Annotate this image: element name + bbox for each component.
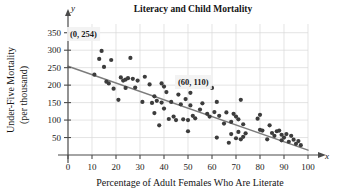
data-point xyxy=(140,100,144,104)
data-point xyxy=(174,118,178,122)
data-point xyxy=(208,114,212,118)
data-point xyxy=(241,122,245,126)
data-point xyxy=(287,140,291,144)
data-point xyxy=(212,110,216,114)
y-axis-caption-line2: (per thousand) xyxy=(18,66,30,124)
data-point xyxy=(241,135,245,139)
data-point xyxy=(169,100,173,104)
data-point xyxy=(227,141,231,145)
data-point xyxy=(126,76,130,80)
data-point xyxy=(188,103,192,107)
x-tick-label-0: 0 xyxy=(66,162,71,172)
data-point xyxy=(112,87,116,91)
data-point xyxy=(133,85,137,89)
data-point xyxy=(186,118,190,122)
data-point xyxy=(289,134,293,138)
data-point xyxy=(160,101,164,105)
x-tick-label-100: 100 xyxy=(301,162,315,172)
y-tick-label-300: 300 xyxy=(48,45,62,55)
data-point xyxy=(167,117,171,121)
data-point xyxy=(244,131,248,135)
data-point xyxy=(234,136,238,140)
annotation-0-label: (0, 254) xyxy=(70,29,97,39)
data-point xyxy=(292,138,296,142)
data-point xyxy=(236,117,240,121)
y-tick-label-350: 350 xyxy=(48,28,62,38)
data-point xyxy=(215,135,219,139)
y-tick-label-200: 200 xyxy=(48,80,62,90)
chart-title: Literacy and Child Mortality xyxy=(134,4,253,14)
data-point xyxy=(299,143,303,147)
y-tick-label-150: 150 xyxy=(48,98,62,108)
y-tick-label-50: 50 xyxy=(52,133,62,143)
data-point xyxy=(116,98,120,102)
data-point xyxy=(272,134,276,138)
annotation-1: (60, 110) xyxy=(175,75,212,89)
data-point xyxy=(268,123,272,127)
data-point xyxy=(109,58,113,62)
data-point xyxy=(236,130,240,134)
data-point xyxy=(152,111,156,115)
data-point xyxy=(143,75,147,79)
data-point xyxy=(181,117,185,121)
data-point xyxy=(184,97,188,101)
data-point xyxy=(256,117,260,121)
data-point xyxy=(162,84,166,88)
data-point xyxy=(172,114,176,118)
x-tick-label-40: 40 xyxy=(160,162,170,172)
data-point xyxy=(265,137,269,141)
data-point xyxy=(152,94,156,98)
data-point xyxy=(128,56,132,60)
x-tick-label-50: 50 xyxy=(184,162,194,172)
data-point xyxy=(282,135,286,139)
x-tick-label-80: 80 xyxy=(256,162,266,172)
y-tick-label-100: 100 xyxy=(48,115,62,125)
data-point xyxy=(150,101,154,105)
data-point xyxy=(229,132,233,136)
x-axis-name: x xyxy=(324,151,329,161)
x-axis-caption: Percentage of Adult Females Who Are Lite… xyxy=(96,177,284,188)
data-point xyxy=(92,73,96,77)
data-point xyxy=(100,49,104,53)
y-tick-label-250: 250 xyxy=(48,63,62,73)
data-point xyxy=(224,110,228,114)
data-point xyxy=(258,113,262,117)
data-point xyxy=(186,129,190,133)
chart-figure: 0102030405060708090100 50100150200250300… xyxy=(0,0,338,192)
data-point xyxy=(136,78,140,82)
data-point xyxy=(107,81,111,85)
data-point xyxy=(239,98,243,102)
data-point xyxy=(193,116,197,120)
data-point xyxy=(157,123,161,127)
x-tick-label-20: 20 xyxy=(112,162,122,172)
data-point xyxy=(200,101,204,105)
y-axis-name: y xyxy=(70,3,75,13)
data-point xyxy=(229,120,233,124)
data-point xyxy=(296,139,300,143)
data-point xyxy=(215,100,219,104)
data-point xyxy=(188,91,192,95)
data-point xyxy=(124,86,128,90)
data-point xyxy=(217,114,221,118)
annotation-0: (0, 254) xyxy=(67,27,100,41)
data-point xyxy=(155,99,159,103)
data-point xyxy=(162,106,166,110)
data-point xyxy=(284,132,288,136)
data-point xyxy=(148,82,152,86)
data-point xyxy=(222,121,226,125)
data-point xyxy=(260,128,264,132)
data-point xyxy=(102,65,106,69)
x-tick-label-70: 70 xyxy=(232,162,242,172)
data-point xyxy=(277,128,281,132)
data-point xyxy=(179,102,183,106)
y-axis-caption-line1: Under-Five Mortality xyxy=(5,47,16,133)
x-tick-label-10: 10 xyxy=(88,162,98,172)
data-point xyxy=(176,92,180,96)
x-tick-label-60: 60 xyxy=(208,162,218,172)
data-point xyxy=(131,77,135,81)
data-point xyxy=(97,57,101,61)
scatter-plot: 0102030405060708090100 50100150200250300… xyxy=(0,0,338,192)
data-point xyxy=(198,107,202,111)
data-point xyxy=(164,90,168,94)
annotation-1-label: (60, 110) xyxy=(178,77,209,87)
